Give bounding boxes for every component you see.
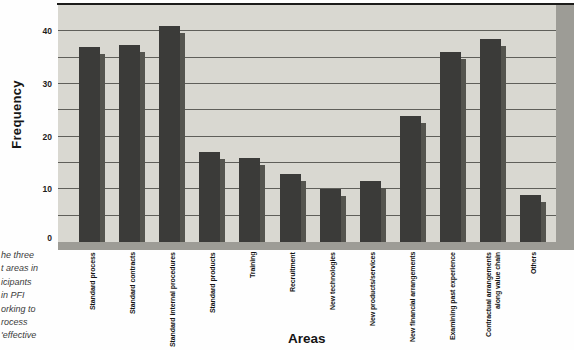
bar-new-technologies: [320, 189, 341, 242]
caption-fragment: t areas in: [1, 262, 55, 275]
bar-training: [239, 158, 260, 242]
x-axis-title: Areas: [288, 331, 348, 346]
y-tick-label: 0: [24, 233, 52, 243]
y-axis-title: Frequency: [9, 73, 24, 157]
bar-standard-internal-procedures: [159, 26, 180, 242]
caption-fragments: he threet areas inicipantsin PFIorking t…: [1, 249, 55, 343]
caption-fragment: orking to: [1, 303, 55, 316]
y-tick-label: 30: [24, 79, 52, 89]
category-label: New financial arrangements: [408, 252, 417, 348]
category-label: Standard products: [207, 252, 216, 348]
caption-fragment: rocess: [1, 316, 55, 329]
bar-new-financial-arrangements: [400, 116, 421, 242]
plot-area: [58, 5, 556, 242]
category-label: Standard process: [87, 252, 96, 348]
bar-contractual-arrangements-along-value-chain: [480, 39, 501, 242]
bar-standard-process: [79, 47, 100, 242]
figure: he threet areas inicipantsin PFIorking t…: [0, 0, 574, 350]
bar-standard-contracts: [119, 45, 140, 243]
gridline: [58, 30, 556, 31]
category-label: Training: [247, 252, 256, 348]
category-label: Standard contracts: [127, 252, 136, 348]
category-label: Others: [528, 252, 537, 348]
caption-fragment: icipants: [1, 276, 55, 289]
y-tick-label: 40: [24, 26, 52, 36]
caption-fragment: 'effective: [1, 329, 55, 342]
bar-recruitment: [280, 174, 301, 242]
category-label: Standard internal procedures: [167, 252, 176, 348]
caption-fragment: in PFI: [1, 289, 55, 302]
caption-fragment: he three: [1, 249, 55, 262]
bar-others: [520, 195, 541, 242]
chart-side-wall: [556, 5, 574, 250]
category-label: Examining past experience: [448, 252, 457, 348]
category-label: New products/services: [368, 252, 377, 348]
chart-floor: [58, 242, 574, 250]
bar-examining-past-experience: [440, 52, 461, 242]
bar-new-products-services: [360, 181, 381, 242]
category-label: Contractual arrangements along value cha…: [484, 252, 502, 348]
y-tick-label: 20: [24, 132, 52, 142]
bar-standard-products: [199, 152, 220, 242]
y-tick-label: 10: [24, 184, 52, 194]
